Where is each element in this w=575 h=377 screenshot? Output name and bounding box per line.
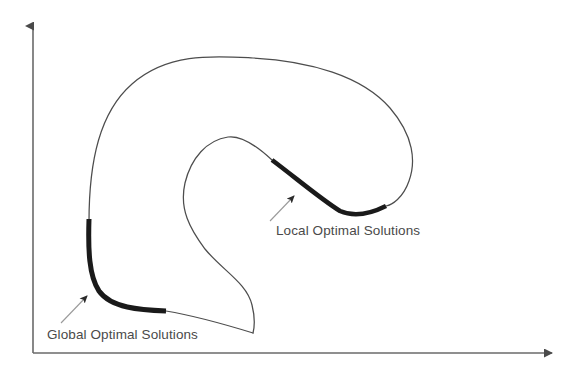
global-pointer-arrow: [61, 296, 87, 323]
outer-curve-path: [89, 57, 413, 222]
inner-loop-path: [183, 137, 272, 333]
local-optimal-label: Local Optimal Solutions: [276, 224, 420, 238]
global-optimal-segment: [89, 219, 166, 311]
local-pointer-arrow: [270, 196, 294, 221]
global-optimal-label: Global Optimal Solutions: [47, 328, 198, 342]
figure-canvas: Global Optimal Solutions Local Optimal S…: [0, 0, 575, 377]
pointer-arrows-group: [61, 196, 294, 323]
landscape-diagram: [0, 0, 575, 377]
axes-group: [33, 26, 552, 353]
landscape-curve-group: [89, 57, 413, 333]
local-optimal-segment: [272, 160, 386, 214]
